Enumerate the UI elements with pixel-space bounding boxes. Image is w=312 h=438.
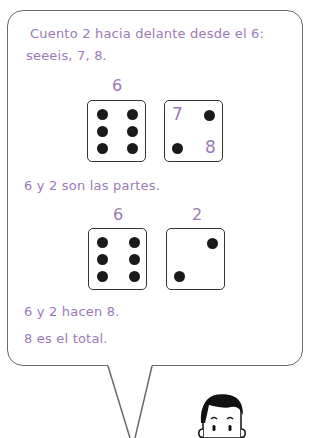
dot-icon xyxy=(127,126,138,137)
dot-icon xyxy=(127,143,138,154)
dot-icon xyxy=(97,237,108,248)
parts-text: 6 y 2 son las partes. xyxy=(24,178,160,193)
die-six-parts xyxy=(88,228,147,290)
dot-icon xyxy=(129,237,140,248)
speech-bubble-tail xyxy=(0,0,312,438)
dot-icon xyxy=(97,271,108,282)
dot-icon xyxy=(127,109,138,120)
dot-icon xyxy=(174,271,185,282)
die-label-six-2: 6 xyxy=(113,205,123,224)
counting-text-line2: seeeis, 7, 8. xyxy=(26,48,107,63)
counting-text-line1: Cuento 2 hacia delante desde el 6: xyxy=(30,26,264,41)
dot-icon xyxy=(97,143,108,154)
count-eight: 8 xyxy=(205,137,216,157)
dot-icon xyxy=(129,254,140,265)
count-seven: 7 xyxy=(172,104,183,124)
dot-icon xyxy=(129,271,140,282)
die-label-two: 2 xyxy=(192,205,202,224)
die-six xyxy=(87,100,146,162)
dot-icon xyxy=(97,254,108,265)
dot-icon xyxy=(97,109,108,120)
dot-icon xyxy=(172,143,183,154)
die-two-counting: 7 8 xyxy=(164,100,223,162)
dot-icon xyxy=(97,126,108,137)
sum-text: 6 y 2 hacen 8. xyxy=(24,304,120,319)
die-label-six: 6 xyxy=(112,76,122,95)
dot-icon xyxy=(207,238,218,249)
child-character-icon xyxy=(195,393,250,438)
die-two-parts xyxy=(166,228,225,290)
total-text: 8 es el total. xyxy=(24,331,108,346)
dot-icon xyxy=(204,110,215,121)
